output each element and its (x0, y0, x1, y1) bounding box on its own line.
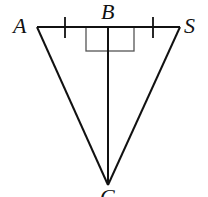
label-B: B (101, 0, 114, 24)
label-S: S (184, 13, 195, 38)
right-angle-mark-right (108, 27, 134, 51)
right-angle-mark-left (86, 27, 108, 51)
label-C: C (100, 184, 115, 197)
triangle-diagram: A B S C (0, 0, 208, 197)
label-A: A (11, 13, 27, 38)
